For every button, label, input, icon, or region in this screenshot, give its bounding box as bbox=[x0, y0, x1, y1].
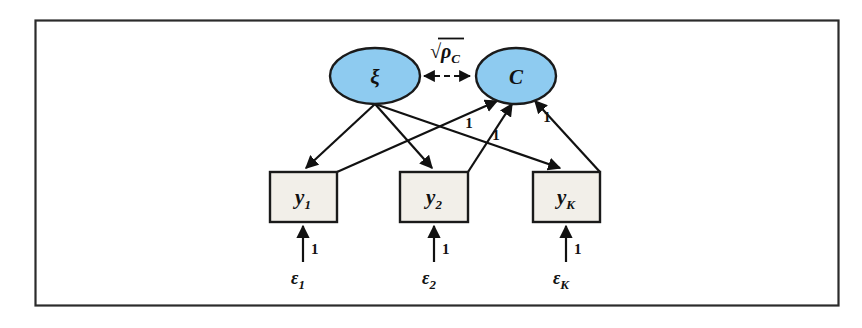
figure-frame bbox=[36, 21, 839, 306]
observed-subscript-y2: 2 bbox=[434, 197, 442, 212]
coef-label-y2-C: 1 bbox=[492, 127, 500, 143]
sem-path-diagram-figure: ξ C √ρC 1 1 1 y1 bbox=[0, 0, 862, 328]
coef-label-y1-C: 1 bbox=[465, 115, 473, 131]
coef-label-e2-y2: 1 bbox=[442, 241, 450, 257]
coef-label-eK-yK: 1 bbox=[574, 241, 582, 257]
error-subscript-e2: 2 bbox=[428, 277, 436, 292]
latent-label-C: C bbox=[509, 65, 524, 89]
observed-subscript-y1: 1 bbox=[304, 197, 311, 212]
coef-label-e1-y1: 1 bbox=[311, 241, 319, 257]
observed-node-y1[interactable]: y1 bbox=[270, 172, 337, 222]
observed-node-y2[interactable]: y2 bbox=[400, 172, 468, 222]
latent-node-xi[interactable]: ξ bbox=[330, 48, 420, 104]
coef-label-yK-C: 1 bbox=[543, 109, 551, 125]
observed-subscript-yK: K bbox=[565, 197, 576, 212]
error-subscript-eK: K bbox=[559, 277, 570, 292]
diagram-canvas: ξ C √ρC 1 1 1 y1 bbox=[0, 0, 862, 328]
error-subscript-e1: 1 bbox=[298, 277, 305, 292]
latent-label-xi: ξ bbox=[370, 65, 380, 89]
observed-node-yK[interactable]: yK bbox=[533, 172, 600, 222]
rho-symbol: ρ bbox=[440, 40, 451, 63]
latent-node-C[interactable]: C bbox=[476, 48, 556, 104]
rho-subscript: C bbox=[451, 51, 460, 66]
